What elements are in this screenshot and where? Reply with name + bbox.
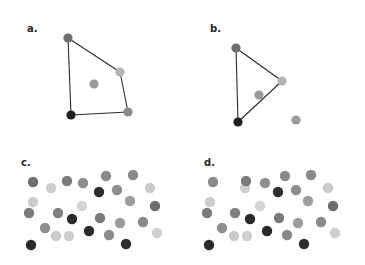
outlier-point xyxy=(291,115,300,124)
hull-edge xyxy=(236,48,282,81)
data-point xyxy=(328,201,338,211)
scatter-figure xyxy=(0,0,365,265)
hull-edge xyxy=(236,48,238,122)
data-point xyxy=(24,208,34,218)
data-point xyxy=(291,185,301,195)
data-point xyxy=(245,214,255,224)
data-point xyxy=(205,197,215,207)
data-point xyxy=(316,217,326,227)
hull-edge xyxy=(238,81,282,122)
hull-vertex-right xyxy=(277,76,286,85)
data-point xyxy=(280,171,290,181)
hull-vertex-top-left xyxy=(231,43,240,52)
data-point xyxy=(53,208,63,218)
panel-label-d: d. xyxy=(204,158,215,168)
data-point xyxy=(67,214,77,224)
data-point xyxy=(299,239,309,249)
data-point xyxy=(40,223,50,233)
data-point xyxy=(262,226,272,236)
panel-label-b: b. xyxy=(210,24,221,34)
hull-edge xyxy=(68,38,71,115)
data-point xyxy=(112,185,122,195)
data-point xyxy=(125,196,135,206)
data-point xyxy=(62,176,72,186)
data-point xyxy=(208,177,218,187)
panel-b xyxy=(231,43,300,126)
panel-label-a: a. xyxy=(27,24,38,34)
data-point xyxy=(95,213,105,223)
interior-point xyxy=(254,90,263,99)
data-point xyxy=(51,231,61,241)
data-point xyxy=(138,217,148,227)
data-point xyxy=(101,171,111,181)
data-point xyxy=(260,178,270,188)
data-point xyxy=(121,239,131,249)
interior-point xyxy=(89,79,98,88)
data-point xyxy=(94,187,104,197)
data-point xyxy=(293,218,303,228)
data-point xyxy=(274,213,284,223)
hull-vertex-bottom-right xyxy=(123,107,132,116)
data-point xyxy=(229,231,239,241)
data-point xyxy=(217,223,227,233)
hull-edge xyxy=(120,72,128,112)
data-point xyxy=(115,218,125,228)
data-point xyxy=(330,228,340,238)
hull-vertex-bottom-left xyxy=(233,117,242,126)
panel-d xyxy=(202,170,340,250)
data-point xyxy=(28,177,38,187)
data-point xyxy=(242,231,252,241)
data-point xyxy=(28,197,38,207)
data-point xyxy=(241,176,251,186)
hull-edge xyxy=(68,38,120,72)
hull-vertex-bottom-left xyxy=(66,110,75,119)
data-point xyxy=(84,226,94,236)
data-point xyxy=(230,208,240,218)
hull-vertex-top-left xyxy=(63,33,72,42)
data-point xyxy=(282,230,292,240)
data-point xyxy=(64,231,74,241)
data-point xyxy=(128,170,138,180)
data-point xyxy=(303,196,313,206)
data-point xyxy=(78,178,88,188)
data-point xyxy=(104,230,114,240)
panel-label-c: c. xyxy=(21,158,31,168)
data-point xyxy=(46,183,56,193)
data-point xyxy=(323,183,333,193)
figure-canvas: a.b.c.d. xyxy=(0,0,365,265)
hull-edge xyxy=(71,112,128,115)
data-point xyxy=(255,201,265,211)
data-point xyxy=(306,170,316,180)
hull-vertex-right xyxy=(115,67,124,76)
data-point xyxy=(77,201,87,211)
data-point xyxy=(202,208,212,218)
data-point xyxy=(152,228,162,238)
data-point xyxy=(204,240,214,250)
panel-c xyxy=(24,170,162,250)
panel-a xyxy=(63,33,132,119)
data-point xyxy=(273,187,283,197)
data-point xyxy=(26,240,36,250)
data-point xyxy=(145,183,155,193)
data-point xyxy=(150,201,160,211)
